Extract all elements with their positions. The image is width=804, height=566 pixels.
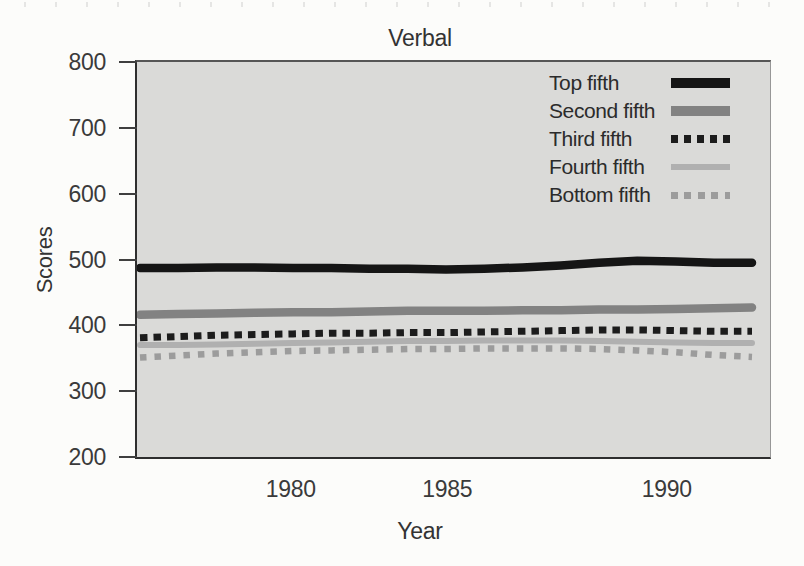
legend-swatch-dashed: [671, 135, 730, 143]
legend-swatch-dotted: [671, 192, 730, 199]
legend-item-fourth-fifth: Fourth fifth: [549, 153, 730, 181]
chart-title: Verbal: [100, 25, 740, 52]
series-line-bottom-fifth: [140, 348, 752, 357]
legend-swatch-solid: [671, 164, 730, 170]
x-axis-label: Year: [100, 518, 740, 545]
y-tick-label-800: 800: [34, 49, 106, 76]
legend-label: Third fifth: [549, 127, 632, 151]
y-tick-mark-300: [119, 390, 137, 392]
legend-item-third-fifth: Third fifth: [549, 125, 730, 153]
legend-label: Fourth fifth: [549, 155, 645, 179]
y-tick-mark-500: [119, 259, 137, 261]
legend-label: Bottom fifth: [549, 183, 650, 207]
legend-swatch-solid-thick: [671, 78, 730, 88]
scan-artifact-strip: [24, 2, 786, 7]
legend-item-top-fifth: Top fifth: [549, 69, 730, 97]
x-tick-label-1985: 1985: [422, 476, 472, 503]
legend-label: Second fifth: [549, 99, 655, 123]
x-tick-label-1990: 1990: [642, 476, 692, 503]
y-tick-label-300: 300: [34, 378, 106, 405]
legend-swatch-solid-thick: [671, 106, 730, 116]
y-tick-label-500: 500: [34, 246, 106, 273]
legend: Top fifthSecond fifthThird fifthFourth f…: [549, 69, 730, 209]
series-line-top-fifth: [140, 261, 752, 270]
y-tick-mark-200: [119, 456, 137, 458]
sat-verbal-figure: Verbal Scores Top fifthSecond fifthThird…: [0, 0, 804, 566]
y-tick-label-400: 400: [34, 312, 106, 339]
legend-label: Top fifth: [549, 71, 619, 95]
y-tick-label-200: 200: [34, 444, 106, 471]
plot-area: Top fifthSecond fifthThird fifthFourth f…: [135, 60, 771, 459]
x-tick-label-1980: 1980: [266, 476, 316, 503]
y-tick-mark-600: [119, 193, 137, 195]
series-line-second-fifth: [140, 308, 752, 315]
y-tick-mark-400: [119, 324, 137, 326]
series-line-third-fifth: [140, 330, 752, 338]
y-tick-label-700: 700: [34, 114, 106, 141]
y-tick-label-600: 600: [34, 180, 106, 207]
series-line-fourth-fifth: [140, 341, 752, 346]
legend-item-second-fifth: Second fifth: [549, 97, 730, 125]
legend-item-bottom-fifth: Bottom fifth: [549, 181, 730, 209]
y-tick-mark-700: [119, 127, 137, 129]
y-tick-mark-800: [119, 61, 137, 63]
